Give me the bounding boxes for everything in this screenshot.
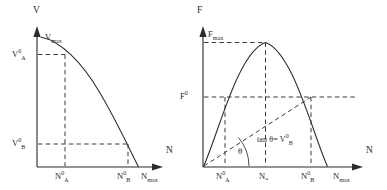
velocity-plot-svg	[0, 0, 193, 190]
label-v0-b: V0B	[12, 139, 25, 148]
guide-slope-line	[204, 97, 311, 166]
flux-plot-svg	[193, 0, 387, 190]
y-axis-arrowhead	[199, 26, 206, 37]
label-n0-b: N0B	[117, 172, 130, 181]
label-n0-b: N0B	[301, 172, 314, 181]
x-axis-arrowhead	[352, 163, 363, 170]
tan-theta-annotation: tan θ= V0B	[257, 136, 293, 144]
figure-root: V N Vmax V0A V0B N0A N0B Nmax	[0, 0, 387, 190]
label-n-max: Nmax	[333, 172, 350, 181]
y-axis-label-v: V	[33, 6, 40, 16]
label-v0-a: V0A	[12, 50, 26, 59]
y-axis-arrowhead	[33, 26, 40, 37]
label-v-max: Vmax	[45, 33, 62, 42]
label-n0-a: N0A	[216, 172, 230, 181]
label-n-max: Nmax	[141, 172, 158, 181]
x-axis-arrowhead	[152, 163, 163, 170]
guide-lines-group	[38, 55, 128, 167]
panel-velocity-chart: V N Vmax V0A V0B N0A N0B Nmax	[0, 0, 193, 190]
label-n0-a: N0A	[55, 172, 69, 181]
y-axis-label-f: F	[197, 6, 202, 16]
label-f-max: Fmax	[208, 30, 223, 39]
axes-group	[37, 32, 157, 167]
x-axis-label-n: N	[366, 146, 373, 156]
label-n-star: N*	[259, 172, 268, 181]
x-axis-label-n: N	[166, 146, 173, 156]
axes-group	[203, 32, 357, 167]
label-f0: F0	[180, 92, 188, 101]
velocity-curve	[41, 37, 139, 167]
theta-symbol: θ	[238, 147, 242, 156]
panel-flux-chart: F N Fmax F0 N0A N* N0B Nmax θ tan θ= V0B	[193, 0, 387, 190]
